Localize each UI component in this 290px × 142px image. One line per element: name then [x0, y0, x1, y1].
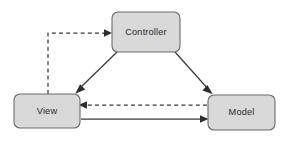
- edge-view-to-model-arrowhead: [200, 115, 209, 122]
- edge-controller-to-model-line: [175, 52, 209, 90]
- node-view-label: View: [37, 106, 58, 116]
- edge-model-to-view: [79, 101, 208, 108]
- node-model[interactable]: Model: [208, 95, 275, 130]
- node-controller[interactable]: Controller: [112, 12, 180, 52]
- node-model-label: Model: [229, 107, 255, 117]
- mvc-diagram-svg: Controller View Model: [0, 0, 290, 142]
- edge-controller-to-view: [75, 52, 117, 94]
- edge-controller-to-view-arrowhead: [75, 84, 85, 94]
- edge-view-to-controller-line: [48, 33, 107, 94]
- node-controller-label: Controller: [125, 27, 166, 37]
- edge-view-to-model: [81, 115, 209, 122]
- edge-controller-to-model: [175, 52, 213, 94]
- edge-controller-to-view-line: [79, 52, 117, 89]
- edge-view-to-controller-arrowhead: [104, 29, 112, 36]
- node-view[interactable]: View: [14, 94, 80, 128]
- edge-controller-to-model-arrowhead: [202, 85, 212, 94]
- mvc-diagram-canvas: Controller View Model: [0, 0, 290, 142]
- edge-view-to-controller: [48, 29, 112, 94]
